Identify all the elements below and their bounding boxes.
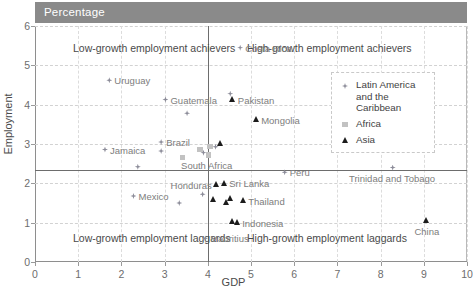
y-tick-mark — [31, 26, 35, 27]
x-tick-mark — [165, 262, 166, 266]
y-tick-mark — [31, 144, 35, 145]
plot-area: 0123456012345678910Low-growth employment… — [35, 26, 467, 262]
x-tick-mark — [251, 262, 252, 266]
point-label: Mongolia — [261, 114, 300, 125]
x-tick-label: 0 — [32, 268, 38, 280]
x-tick-mark — [208, 262, 209, 266]
x-tick-label: 4 — [205, 268, 211, 280]
legend-label: Latin America and the Caribbean — [356, 79, 426, 114]
x-tick-label: 1 — [75, 268, 81, 280]
x-tick-label: 10 — [461, 268, 473, 280]
x-tick-mark — [121, 262, 122, 266]
x-tick-mark — [424, 262, 425, 266]
y-tick-mark — [31, 183, 35, 184]
quadrant-label-top-left: Low-growth employment achievers — [73, 42, 235, 54]
legend-label: Africa — [356, 118, 381, 130]
legend-marker-diamond — [339, 79, 351, 91]
point-label: Indonesia — [242, 217, 283, 228]
x-tick-mark — [78, 262, 79, 266]
horizontal-reference-line — [35, 170, 467, 171]
point-label: Sri Lanka — [229, 178, 269, 189]
point-label: Guatemala — [170, 94, 216, 105]
y-tick-mark — [31, 223, 35, 224]
legend-item[interactable]: Africa — [339, 118, 426, 130]
y-tick-mark — [31, 105, 35, 106]
x-tick-mark — [467, 262, 468, 266]
point-label: Thailand — [248, 196, 284, 207]
point-label: South Africa — [181, 160, 232, 171]
legend-marker-triangle — [339, 134, 351, 146]
point-label: Costa Rica — [245, 42, 291, 53]
x-tick-label: 9 — [421, 268, 427, 280]
x-tick-mark — [294, 262, 295, 266]
point-label: Trinidad and Tobago — [349, 172, 435, 183]
x-gridline — [78, 26, 79, 262]
legend-label: Asia — [356, 134, 375, 146]
y-tick-label: 2 — [24, 177, 30, 189]
y-tick-label: 3 — [24, 138, 30, 150]
legend-item[interactable]: Latin America and the Caribbean — [339, 79, 426, 114]
x-axis-title: GDP — [0, 276, 467, 288]
quadrant-label-bottom-right: High-growth employment laggards — [247, 232, 407, 244]
x-gridline — [467, 26, 468, 262]
y-tick-label: 5 — [24, 59, 30, 71]
x-tick-label: 2 — [118, 268, 124, 280]
point-label: Honduras — [171, 180, 212, 191]
legend-marker-square — [339, 118, 351, 130]
y-tick-label: 1 — [24, 217, 30, 229]
y-axis-title: Employment — [2, 64, 14, 184]
y-tick-mark — [31, 65, 35, 66]
x-tick-label: 6 — [291, 268, 297, 280]
x-tick-mark — [381, 262, 382, 266]
point-label: Jamaica — [110, 144, 145, 155]
point-label: Peru — [290, 167, 310, 178]
point-label: China — [414, 225, 439, 236]
point-label: Uruguay — [114, 75, 150, 86]
x-tick-mark — [35, 262, 36, 266]
legend-item[interactable]: Asia — [339, 134, 426, 146]
point-label: Brazil — [166, 137, 190, 148]
y-tick-label: 6 — [24, 20, 30, 32]
point-label: Pakistan — [238, 94, 274, 105]
x-tick-label: 5 — [248, 268, 254, 280]
y-tick-label: 0 — [24, 256, 30, 268]
y-tick-label: 4 — [24, 99, 30, 111]
x-tick-label: 7 — [334, 268, 340, 280]
chart-legend: Latin America and the CaribbeanAfricaAsi… — [331, 72, 435, 153]
x-gridline — [294, 26, 295, 262]
x-tick-mark — [337, 262, 338, 266]
point-label: Mauritius — [210, 233, 249, 244]
x-tick-label: 3 — [162, 268, 168, 280]
x-tick-label: 8 — [378, 268, 384, 280]
point-label: Mexico — [138, 190, 168, 201]
chart-title: Percentage — [44, 6, 105, 18]
